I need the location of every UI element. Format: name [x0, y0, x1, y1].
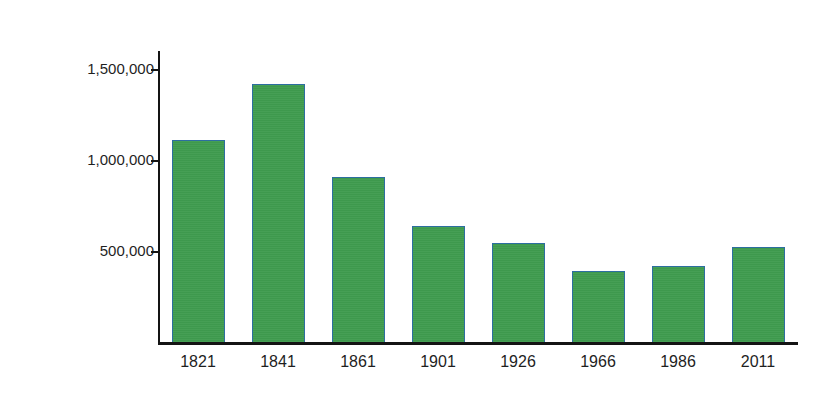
bar	[332, 177, 385, 343]
bar	[492, 243, 545, 342]
bar	[652, 266, 705, 342]
bar	[732, 247, 785, 342]
x-axis-tick-label: 1901	[398, 353, 478, 371]
x-axis-tick-label: 1841	[238, 353, 318, 371]
bar-fill	[493, 244, 544, 342]
bar-fill	[173, 141, 224, 342]
bar-fill	[413, 227, 464, 342]
y-axis-tick-label: 1,500,000	[58, 61, 154, 76]
bar-chart: Population of Connacht 500,0001,000,0001…	[0, 0, 823, 400]
bar	[172, 140, 225, 342]
x-axis-line	[158, 342, 798, 345]
bar-fill	[653, 267, 704, 342]
plot-area: 18211841186119011926196619862011	[158, 51, 798, 344]
bar-fill	[573, 272, 624, 342]
bars-group	[158, 51, 798, 342]
y-axis-tick-labels: 500,0001,000,0001,500,000	[48, 0, 154, 400]
bar	[252, 84, 305, 342]
x-axis-tick-label: 2011	[718, 353, 798, 371]
bar-fill	[333, 178, 384, 343]
y-axis-tick-label: 500,000	[58, 243, 154, 258]
x-axis-tick-label: 1966	[558, 353, 638, 371]
bar	[572, 271, 625, 342]
x-axis-tick-label: 1861	[318, 353, 398, 371]
x-axis-tick-label: 1926	[478, 353, 558, 371]
bar-fill	[733, 248, 784, 342]
x-axis-tick-label: 1821	[158, 353, 238, 371]
y-axis-tick-label: 1,000,000	[58, 152, 154, 167]
bar	[412, 226, 465, 342]
bar-fill	[253, 85, 304, 342]
x-axis-tick-label: 1986	[638, 353, 718, 371]
